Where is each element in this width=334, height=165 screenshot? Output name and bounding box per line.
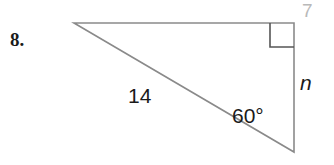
triangle-diagram [0,0,334,165]
problem-number-label: 8. [10,30,24,49]
triangle-shape [74,23,294,152]
hypotenuse-length-label: 14 [128,85,151,106]
geometry-figure: 8. 14 60° n 7 [0,0,334,165]
angle-measure-label: 60° [232,105,264,126]
unknown-side-label: n [300,72,312,93]
right-angle-marker-icon [270,23,294,47]
page-number-artifact: 7 [302,1,313,20]
